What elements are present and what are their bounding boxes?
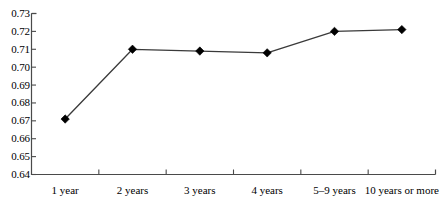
x-axis-tick-label: 5–9 years <box>313 184 355 196</box>
x-axis-tick-label: 3 years <box>184 184 215 196</box>
x-axis-tick-label: 1 year <box>52 184 79 196</box>
y-axis-ticks <box>32 14 37 175</box>
data-point-marker <box>330 27 338 35</box>
axis-lines <box>32 14 436 175</box>
data-point-markers <box>61 25 406 123</box>
data-point-marker <box>398 25 406 33</box>
x-axis-labels: 1 year2 years3 years4 years5–9 years10 y… <box>31 184 436 202</box>
data-point-marker <box>196 47 204 55</box>
x-axis-tick-label: 10 years or more <box>365 184 439 196</box>
data-point-marker <box>263 49 271 57</box>
data-series-line <box>65 30 402 119</box>
x-axis-ticks <box>99 170 368 175</box>
x-axis-tick-label: 4 years <box>251 184 282 196</box>
x-axis-tick-label: 2 years <box>117 184 148 196</box>
